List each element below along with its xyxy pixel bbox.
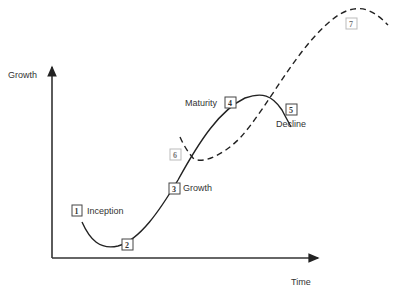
lifecycle-curve [82, 95, 291, 247]
svg-text:Maturity: Maturity [185, 98, 218, 108]
svg-text:6: 6 [173, 151, 177, 160]
renewal-curve [180, 9, 388, 161]
svg-text:7: 7 [349, 20, 353, 29]
svg-text:1: 1 [75, 207, 79, 216]
stage-1: 1 Inception [72, 205, 124, 216]
stage-2: 2 [122, 239, 133, 250]
stage-6: 6 [170, 149, 181, 160]
svg-text:Inception: Inception [87, 206, 124, 216]
stage-4: Maturity 4 [185, 97, 236, 108]
svg-text:4: 4 [228, 99, 232, 108]
stage-7: 7 [346, 18, 357, 29]
lifecycle-diagram: Growth Time 1 Inception 2 3 Growth Matur… [0, 0, 393, 297]
svg-text:3: 3 [172, 185, 176, 194]
svg-text:Growth: Growth [183, 183, 212, 193]
stage-3: 3 Growth [169, 183, 212, 194]
svg-text:2: 2 [125, 241, 129, 250]
svg-text:5: 5 [289, 106, 293, 115]
svg-text:Decline: Decline [276, 119, 306, 129]
x-axis-label: Time [291, 277, 311, 287]
y-axis-label: Growth [8, 70, 37, 80]
